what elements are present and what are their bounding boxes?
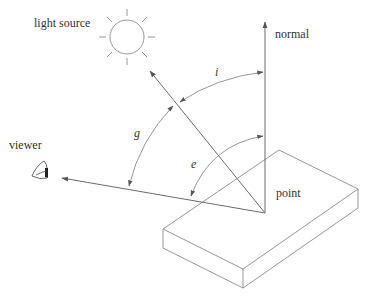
viewer-label: viewer bbox=[9, 138, 42, 152]
emittance-angle-label: e bbox=[191, 157, 197, 171]
light-direction-vector bbox=[150, 71, 265, 213]
light-source-icon bbox=[99, 9, 155, 65]
incidence-angle-label: i bbox=[215, 65, 218, 79]
viewer-direction-vector bbox=[62, 178, 265, 213]
phase-angle-arc bbox=[129, 106, 173, 186]
normal-label: normal bbox=[275, 27, 310, 41]
point-label: point bbox=[276, 186, 301, 200]
light-source-label: light source bbox=[34, 16, 90, 30]
viewer-eye-icon bbox=[32, 161, 48, 179]
photometric-angle-diagram: light source normal viewer point i g e bbox=[0, 0, 371, 301]
incidence-angle-arc bbox=[180, 72, 263, 102]
phase-angle-label: g bbox=[134, 126, 140, 140]
